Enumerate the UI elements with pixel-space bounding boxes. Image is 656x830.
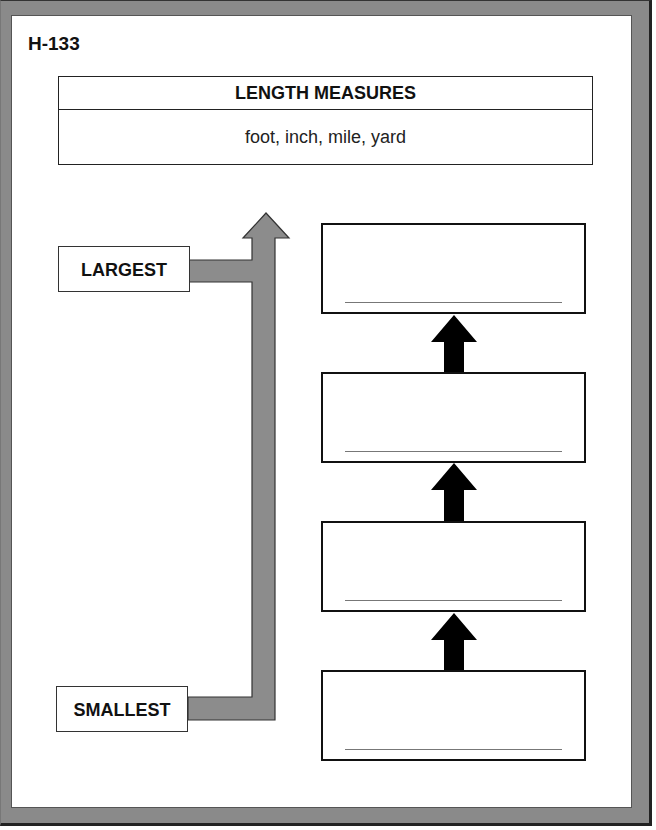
up-arrow-icon xyxy=(431,463,477,521)
answer-box-1[interactable] xyxy=(321,223,586,314)
answer-line xyxy=(345,302,562,303)
smallest-label: SMALLEST xyxy=(56,686,188,732)
up-arrow-icon xyxy=(431,613,477,670)
answer-line xyxy=(345,451,562,452)
largest-label: LARGEST xyxy=(58,246,190,292)
answer-box-4[interactable] xyxy=(321,670,586,761)
answer-line xyxy=(345,749,562,750)
scale-arrow-icon xyxy=(188,213,289,720)
answer-box-2[interactable] xyxy=(321,372,586,463)
answer-box-3[interactable] xyxy=(321,521,586,612)
answer-line xyxy=(345,600,562,601)
up-arrow-icon xyxy=(431,315,477,372)
